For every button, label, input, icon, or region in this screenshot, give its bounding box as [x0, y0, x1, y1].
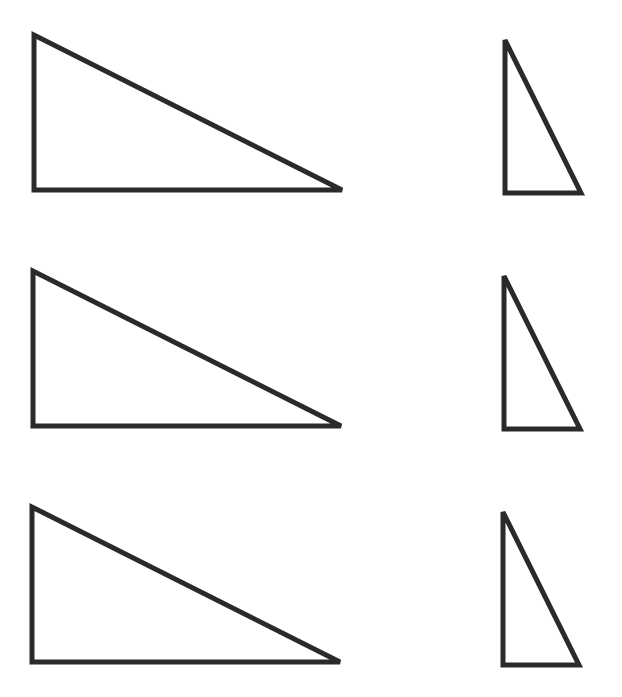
large-triangle-row-1 — [34, 35, 342, 190]
small-triangle-row-1 — [505, 40, 581, 193]
small-triangle-row-2 — [504, 276, 580, 429]
large-triangle-row-2 — [33, 271, 341, 426]
large-triangle-row-3 — [32, 507, 340, 662]
small-triangle-row-3 — [503, 512, 579, 665]
triangles-diagram — [0, 0, 622, 697]
